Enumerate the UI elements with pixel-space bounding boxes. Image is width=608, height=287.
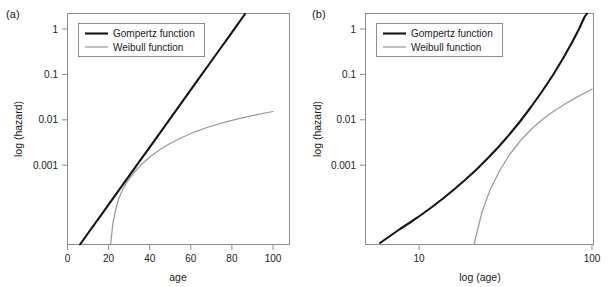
panel-b-y-axis-title: log (hazard): [311, 101, 323, 157]
y-tick-label: 0.1: [342, 69, 356, 80]
x-tick-label: 100: [584, 253, 601, 264]
y-tick-label: 0.001: [33, 160, 58, 171]
x-tick-label: 60: [185, 253, 197, 264]
legend-label-gompertz: Gompertz function: [411, 28, 493, 39]
panel-a-plot: 1 0.1 0.01 0.001 0 20 40 60 80 100: [0, 0, 304, 287]
legend-label-weibull: Weibull function: [411, 42, 481, 53]
x-tick-label: 20: [103, 253, 115, 264]
panel-a-x-axis: 0 20 40 60 80 100: [65, 245, 282, 265]
panel-b-plot: 1 0.1 0.01 0.001 10 100 log (age) log (h…: [304, 0, 608, 287]
curve-weibull: [111, 112, 273, 245]
panel-b-x-axis: 10 100: [413, 245, 600, 265]
panel-a-y-axis-title: log (hazard): [12, 101, 24, 157]
panel-b-x-axis-title: log (age): [459, 271, 500, 283]
x-tick-label: 40: [144, 253, 156, 264]
x-tick-label: 80: [226, 253, 238, 264]
x-tick-label: 0: [65, 253, 71, 264]
x-tick-label: 10: [413, 253, 425, 264]
panel-b: (b) 1 0.1 0.01 0.001 10 100: [304, 0, 608, 287]
y-tick-label: 1: [52, 24, 58, 35]
panel-b-legend: Gompertz function Weibull function: [377, 24, 503, 57]
y-tick-label: 0.01: [337, 114, 357, 125]
panel-b-y-axis: 1 0.1 0.01 0.001: [331, 24, 366, 171]
panel-a-x-axis-title: age: [169, 271, 187, 283]
legend-label-weibull: Weibull function: [113, 42, 183, 53]
curve-weibull: [474, 89, 592, 245]
panel-a: (a) 1 0.1 0.01 0.001: [0, 0, 304, 287]
y-tick-label: 1: [350, 24, 356, 35]
figure-container: (a) 1 0.1 0.01 0.001: [0, 0, 608, 287]
y-tick-label: 0.01: [39, 114, 59, 125]
y-tick-label: 0.001: [331, 160, 356, 171]
panel-a-legend: Gompertz function Weibull function: [79, 24, 205, 57]
y-tick-label: 0.1: [44, 69, 58, 80]
panel-a-y-axis: 1 0.1 0.01 0.001: [33, 24, 68, 171]
legend-label-gompertz: Gompertz function: [113, 28, 195, 39]
x-tick-label: 100: [265, 253, 282, 264]
